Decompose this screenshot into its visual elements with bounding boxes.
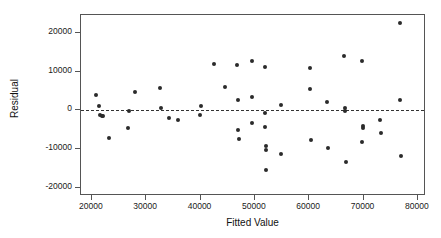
y-axis-tick-mark [75,187,80,188]
data-point [107,136,111,140]
residual-scatter-chart: 20000100000-10000-2000020000300004000050… [0,0,441,238]
data-point [198,113,202,117]
data-points-layer [81,15,424,194]
data-point [158,86,162,90]
y-axis-tick-label: -10000 [46,143,72,152]
x-axis-tick-label: 80000 [405,202,429,211]
data-point [94,93,98,97]
x-axis-label: Fitted Value [80,217,425,228]
data-point [263,65,267,69]
x-axis-tick-mark [254,195,255,200]
x-axis-tick-label: 50000 [242,202,266,211]
data-point [398,21,402,25]
data-point [133,90,137,94]
data-point [264,144,268,148]
x-axis-tick-mark [145,195,146,200]
data-point [126,126,130,130]
data-point [236,128,240,132]
x-axis-tick-mark [308,195,309,200]
data-point [325,100,329,104]
data-point [237,137,241,141]
x-axis-tick-label: 20000 [79,202,103,211]
x-axis-tick-label: 60000 [296,202,320,211]
data-point [360,140,364,144]
data-point [309,138,313,142]
data-point [279,152,283,156]
x-axis-tick-mark [363,195,364,200]
data-point [97,104,101,108]
data-point [199,104,203,108]
x-axis-tick-label: 30000 [133,202,157,211]
y-axis-tick-label: 20000 [48,27,72,36]
data-point [127,109,131,113]
x-axis-tick-label: 70000 [351,202,375,211]
x-axis-tick-label: 40000 [188,202,212,211]
y-axis-tick-mark [75,148,80,149]
data-point [361,126,365,130]
data-point [263,111,267,115]
x-axis-tick-mark [417,195,418,200]
data-point [223,85,227,89]
data-point [212,62,216,66]
data-point [235,63,239,67]
data-point [264,168,268,172]
data-point [342,54,346,58]
data-point [264,148,268,152]
data-point [176,118,180,122]
data-point [279,103,283,107]
data-point [379,131,383,135]
data-point [236,98,240,102]
y-axis-tick-mark [75,109,80,110]
chart-title-clipped [0,0,441,8]
data-point [250,59,254,63]
data-point [378,118,382,122]
data-point [344,160,348,164]
y-axis-tick-label: -20000 [46,182,72,191]
data-point [326,146,330,150]
data-point [250,95,254,99]
y-axis-label: Residual [9,49,20,149]
data-point [399,154,403,158]
data-point [398,98,402,102]
data-point [167,116,171,120]
data-point [159,106,163,110]
data-point [263,125,267,129]
data-point [308,66,312,70]
data-point [308,87,312,91]
data-point [343,109,347,113]
y-axis-tick-mark [75,71,80,72]
data-point [101,114,105,118]
y-axis-tick-label: 0 [67,104,72,113]
data-point [250,121,254,125]
x-axis-tick-mark [91,195,92,200]
data-point [360,59,364,63]
x-axis-tick-mark [200,195,201,200]
y-axis-tick-label: 10000 [48,66,72,75]
plot-area [80,14,425,195]
y-axis-tick-mark [75,32,80,33]
